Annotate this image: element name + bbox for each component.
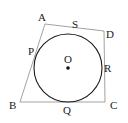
label-P: P bbox=[28, 46, 34, 57]
label-R: R bbox=[104, 63, 111, 74]
circle-center-dot bbox=[66, 66, 70, 70]
quadrilateral-abcd bbox=[20, 24, 105, 102]
label-Q: Q bbox=[63, 105, 71, 116]
label-C: C bbox=[110, 100, 117, 111]
label-B: B bbox=[9, 100, 16, 111]
label-A: A bbox=[38, 12, 46, 23]
label-O: O bbox=[64, 54, 72, 65]
geometry-figure: A S D P O R B Q C bbox=[0, 0, 128, 123]
label-D: D bbox=[106, 29, 114, 40]
label-S: S bbox=[72, 19, 78, 30]
